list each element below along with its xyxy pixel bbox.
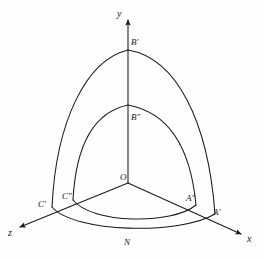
- point-label-c-prime: C': [38, 200, 46, 209]
- point-label-origin: O: [120, 173, 127, 182]
- outer-arc-b-to-c: [52, 50, 128, 207]
- point-label-b-prime: B': [131, 38, 138, 47]
- inner-arc-c-to-a: [73, 200, 196, 219]
- point-label-a-prime: A': [213, 208, 220, 217]
- x-axis-line: [128, 183, 241, 234]
- point-label-b-double-prime: B″: [131, 113, 140, 122]
- geometry-figure: y x z O B' B″ A' A″ C' C″ N: [0, 0, 264, 258]
- axis-label-y: y: [117, 9, 121, 19]
- point-label-c-double-prime: C″: [62, 192, 72, 201]
- inner-arc-b-to-c: [73, 105, 128, 200]
- outer-arc-c-to-a: [52, 207, 215, 228]
- point-label-n: N: [124, 238, 130, 247]
- axis-label-x: x: [247, 234, 251, 244]
- point-label-a-double-prime: A″: [186, 194, 195, 203]
- axis-label-z: z: [8, 228, 12, 238]
